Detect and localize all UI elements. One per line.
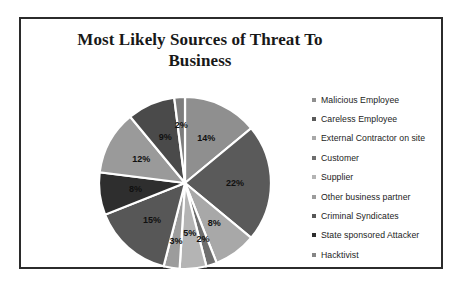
square-marker	[312, 214, 316, 218]
pie-slice-label: 5%	[183, 228, 196, 238]
pie-slice-label: 22%	[226, 178, 244, 188]
square-marker	[312, 117, 316, 121]
legend-item-label: Criminal Syndicates	[321, 211, 399, 221]
square-marker	[312, 195, 316, 199]
square-marker	[312, 156, 316, 160]
legend-item[interactable]: Other business partner	[312, 187, 457, 206]
legend-item[interactable]: Careless Employee	[312, 109, 457, 128]
pie-slice-label: 2%	[175, 120, 188, 130]
pie-slice-label: 9%	[159, 132, 172, 142]
legend-item[interactable]: Customer	[312, 148, 457, 167]
pie-slice-label: 3%	[169, 236, 182, 246]
pie-svg: 14%22%8%2%5%3%15%8%12%9%2%	[95, 93, 275, 273]
chart-title: Most Likely Sources of Threat To Busines…	[55, 29, 345, 71]
pie-slice-label: 14%	[197, 133, 215, 143]
legend-item[interactable]: Criminal Syndicates	[312, 206, 457, 225]
legend-item[interactable]: Hacktivist	[312, 245, 457, 264]
square-marker	[312, 98, 316, 102]
legend-item-label: Hacktivist	[321, 250, 359, 260]
chart-frame: Most Likely Sources of Threat To Busines…	[19, 17, 443, 269]
legend-item[interactable]: Malicious Employee	[312, 90, 457, 109]
square-marker	[312, 175, 316, 179]
pie-chart: 14%22%8%2%5%3%15%8%12%9%2%	[95, 93, 275, 273]
pie-slice-label: 15%	[143, 215, 161, 225]
legend-item-label: Other business partner	[321, 192, 410, 202]
legend-item-label: External Contractor on site	[321, 133, 425, 143]
legend-item-label: Customer	[321, 153, 359, 163]
pie-slice-label: 2%	[197, 234, 210, 244]
legend-item-label: Careless Employee	[321, 114, 397, 124]
pie-slice-label: 8%	[129, 184, 142, 194]
legend-item[interactable]: External Contractor on site	[312, 129, 457, 148]
pie-slice-label: 8%	[208, 218, 221, 228]
legend-item-label: Supplier	[321, 172, 353, 182]
square-marker	[312, 136, 316, 140]
legend-item[interactable]: State sponsored Attacker	[312, 226, 457, 245]
legend-item-label: Malicious Employee	[321, 95, 399, 105]
legend-item-label: State sponsored Attacker	[321, 230, 419, 240]
pie-slice-label: 12%	[132, 154, 150, 164]
square-marker	[312, 233, 316, 237]
legend-item[interactable]: Supplier	[312, 168, 457, 187]
square-marker	[312, 253, 316, 257]
chart-legend: Malicious EmployeeCareless EmployeeExter…	[312, 90, 457, 265]
